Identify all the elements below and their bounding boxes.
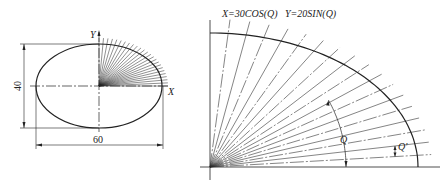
angle-q-prime-arrow-top-icon [394,146,397,150]
left-y-axis-label: Y [90,29,97,40]
dim-60-arrow-right-icon [157,144,163,147]
right-ray-centerline [210,155,431,167]
angle-q-arrow-bottom-icon [345,161,348,167]
right-ray [210,29,288,167]
right-parametric-detail-figure: Q Q' X=30COS(Q) Y=20SIN(Q) [200,8,440,180]
dim-60-label: 60 [93,134,103,145]
left-radial-rays [99,38,168,86]
diagram-canvas: Y X 40 60 Q Q' X=30COS(Q) Y=20SIN(Q) [0,0,448,190]
dim-60-arrow-left-icon [36,144,42,147]
angle-q-prime-arrow-bottom-icon [394,153,397,157]
left-x-axis-label: X [167,86,175,97]
right-ray-centerline [210,106,412,167]
dim-40-arrow-bottom-icon [23,122,26,128]
right-ray-centerline [210,130,425,167]
angle-q-label: Q [340,134,348,145]
left-ray [99,52,148,86]
left-ellipse-figure: Y X 40 60 [12,29,175,149]
dim-40-arrow-top-icon [23,44,26,50]
right-ray-centerline [210,25,269,167]
left-ray [99,43,130,86]
right-ray-centerline [210,34,306,167]
right-ray-centerline [210,20,230,167]
dim-40-label: 40 [12,81,23,91]
angle-q-prime-label: Q' [398,141,408,152]
right-ray [210,118,419,167]
left-y-axis-arrow-icon [98,30,101,36]
left-ray [99,65,161,86]
equation-y: Y=20SIN(Q) [285,8,337,20]
equation-x: X=30COS(Q) [221,8,278,20]
